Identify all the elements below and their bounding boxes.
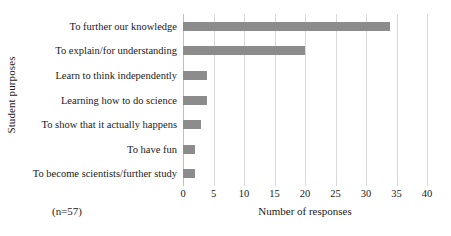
bar-row[interactable]	[183, 137, 427, 162]
category-label: To explain/for understanding	[18, 39, 181, 64]
bar[interactable]	[183, 169, 195, 178]
bar-row[interactable]	[183, 161, 427, 186]
bar-series	[183, 14, 427, 186]
bar[interactable]	[183, 46, 305, 55]
category-label: To become scientists/further study	[18, 161, 181, 186]
category-label: To show that it actually happens	[18, 112, 181, 137]
x-axis-tick-labels: 0510152025303540	[183, 188, 427, 202]
x-axis-title: Number of responses	[183, 205, 427, 217]
bar-chart-figure: Student purposes To further our knowledg…	[0, 0, 451, 236]
x-axis-tick-label: 30	[361, 188, 372, 199]
x-axis-tick-label: 15	[269, 188, 280, 199]
bar[interactable]	[183, 145, 195, 154]
bar[interactable]	[183, 96, 207, 105]
bar[interactable]	[183, 71, 207, 80]
category-label: Learn to think independently	[18, 63, 181, 88]
x-axis-tick-label: 35	[391, 188, 402, 199]
y-axis-title-text: Student purposes	[5, 56, 17, 133]
plot-area	[183, 14, 427, 186]
x-axis-tick-label: 25	[330, 188, 341, 199]
bar-row[interactable]	[183, 14, 427, 39]
category-label-list: To further our knowledge To explain/for …	[18, 14, 181, 186]
sample-size-note: (n=57)	[52, 205, 82, 217]
x-axis-tick-label: 0	[180, 188, 185, 199]
category-label: To have fun	[18, 137, 181, 162]
bar-row[interactable]	[183, 88, 427, 113]
x-axis-tick-label: 20	[300, 188, 311, 199]
category-label: To further our knowledge	[18, 14, 181, 39]
bar[interactable]	[183, 22, 390, 31]
bar[interactable]	[183, 120, 201, 129]
x-axis-tick-label: 40	[422, 188, 433, 199]
x-axis-tick-label: 5	[211, 188, 216, 199]
gridline	[427, 14, 428, 186]
x-axis-tick-label: 10	[239, 188, 250, 199]
bar-row[interactable]	[183, 63, 427, 88]
bar-row[interactable]	[183, 112, 427, 137]
category-label: Learning how to do science	[18, 88, 181, 113]
bar-row[interactable]	[183, 39, 427, 64]
